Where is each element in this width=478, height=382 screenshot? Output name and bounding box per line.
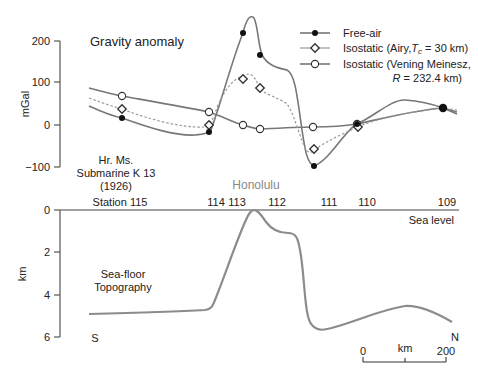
scale-end: 200 [437,345,455,357]
ytick-0: 0 [44,119,50,131]
ytick-4km: 4 [44,289,50,301]
ytick-2km: 2 [44,246,50,258]
scale-unit: km [398,342,413,354]
legend: Free-air Isostatic (Airy,Tc = 30 km) Iso… [300,27,471,84]
gravity-chart: 200 100 0 −100 mGal Gravity anomaly [19,17,471,173]
legend-item-airy: Isostatic (Airy,Tc = 30 km) [300,42,468,56]
north-label: N [451,331,459,343]
station-115: Station 115 [93,196,148,208]
legend-label-vening-meinesz: Isostatic (Vening Meinesz, [343,58,471,70]
legend-label-free-air: Free-air [343,27,382,39]
station-112: 112 [268,196,286,208]
ytick-6km: 6 [44,331,50,343]
topography-y-label: km [16,267,28,282]
gravity-y-label: mGal [19,91,31,117]
honolulu-label: Honolulu [232,178,279,192]
station-114: 114 [207,196,225,208]
topography-title-line2: Topography [94,281,152,293]
airy-markers [118,75,362,153]
ship-name-line3: (1926) [100,180,132,192]
station-labels: Hr. Ms. Submarine K 13 (1926) Honolulu S… [77,154,457,208]
ship-name-line1: Hr. Ms. [99,154,134,166]
station-109: 109 [438,196,456,208]
south-label: S [91,332,98,344]
legend-item-vening-meinesz: Isostatic (Vening Meinesz, R = 232.4 km) [300,58,471,84]
legend-label-vening-meinesz-line2: R = 232.4 km) [393,72,462,84]
airy-curve [89,74,457,152]
ytick-0km: 0 [44,204,50,216]
ytick-100: 100 [32,76,50,88]
topography-title-line1: Sea-floor [101,268,146,280]
station-111: 111 [321,196,338,208]
legend-label-airy: Isostatic (Airy,Tc = 30 km) [343,42,468,56]
ytick-200: 200 [32,35,50,47]
gravity-title: Gravity anomaly [90,34,184,49]
station-113: 113 [228,196,246,208]
ytick-minus100: −100 [25,161,50,173]
vening-meinesz-curve [89,88,457,129]
station-110: 110 [358,196,376,208]
figure: 200 100 0 −100 mGal Gravity anomaly [0,0,478,382]
sea-level-label: Sea level [409,214,454,226]
scale-start: 0 [360,345,366,357]
topography-chart: Sea level 0 2 4 6 km Sea-floor Topograph… [16,204,459,362]
scale-bar: 0 km 200 [360,342,455,362]
ship-name-line2: Submarine K 13 [77,167,156,179]
legend-item-free-air: Free-air [300,27,382,39]
